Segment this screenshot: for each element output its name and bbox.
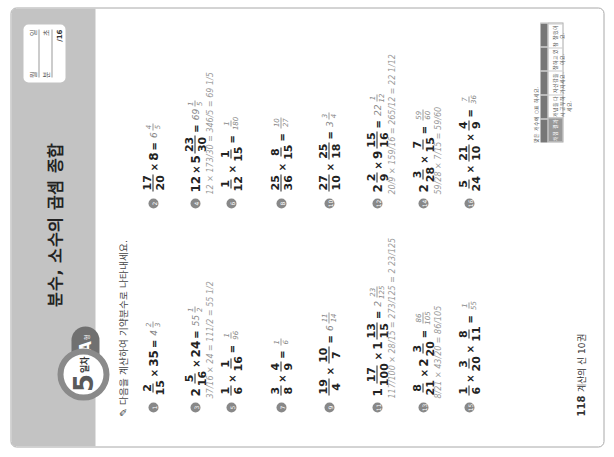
month-label: 월 <box>27 71 37 77</box>
problem-10: 102710×2518=334 <box>317 111 341 208</box>
fraction: 34 <box>321 112 337 118</box>
handwritten-work: 117/100 × 28/15 = 273/125 = 2 23/125 <box>387 237 396 398</box>
problem-2: 21720×8=645 <box>141 122 165 208</box>
problem-15: 1516×320×811=155 <box>457 300 481 412</box>
eval-cell: 채점 결과 <box>548 117 562 141</box>
problem-number: 10 <box>324 198 334 208</box>
fraction: 815 <box>269 144 293 159</box>
fraction: 320 <box>411 341 435 356</box>
fraction: 16 <box>457 385 481 395</box>
fraction: 1180 <box>223 116 239 129</box>
fraction: 16 <box>219 385 243 395</box>
day-number: 5 <box>68 373 98 391</box>
problem-9: 9194×107=61114 <box>317 311 341 412</box>
instruction-text: 다음을 계산하여 기약분수로 나타내세요. <box>117 240 128 405</box>
handwritten-answer: 155 <box>461 300 477 311</box>
handwritten-answer: 736 <box>461 94 477 105</box>
fraction: 112 <box>369 93 385 102</box>
instruction: ✎다음을 계산하여 기약분수로 나타내세요. <box>115 240 129 416</box>
problem-5: 516×116=196 <box>219 329 243 412</box>
fraction: 196 <box>223 330 239 339</box>
problem-12: 12229×91516=22112 <box>365 92 389 208</box>
fraction: 112 <box>219 176 243 191</box>
fraction: 524 <box>457 176 481 191</box>
handwritten-answer: 1027 <box>273 116 289 129</box>
fraction: 16 <box>273 338 289 344</box>
problem-number: 6 <box>226 198 236 208</box>
problem-number: 12 <box>372 198 382 208</box>
fraction: 115 <box>219 146 243 161</box>
eval-cells: 채점 결과 개념을 다시 공부하세요. 자신감을 가지세요. 잘하고 있어요. … <box>547 22 563 142</box>
day-label-field: 일 <box>27 29 37 35</box>
eval-caption: 맞은 개수에 ○표 하세요. <box>531 22 538 142</box>
handwritten-work: 8/21 × 43/20 = 86/105 <box>433 305 442 398</box>
problem-number: 16 <box>464 198 474 208</box>
fraction: 215 <box>141 380 165 395</box>
handwritten-work: 59/28 × 7/15 = 59/60 <box>433 106 442 194</box>
handwritten-work: 12 × 173/30 = 346/5 = 69 1/5 <box>205 72 214 194</box>
evaluation-table: 맞은 개수에 ○표 하세요. 채점 결과 개념을 다시 공부하세요. 자신감을 … <box>531 22 563 142</box>
problem-number: 15 <box>464 402 474 412</box>
problem-4: 412×52330=6915 <box>183 99 207 208</box>
fraction: 715 <box>411 137 435 152</box>
fraction: 2110 <box>457 144 481 161</box>
day-badge: 5 일차 <box>57 348 109 400</box>
pencil-icon: ✎ <box>117 408 128 416</box>
handwritten-answer: 196 <box>223 329 239 340</box>
fraction: 17100 <box>365 363 389 386</box>
page-frame: 5 일차 A 형 분수, 소수의 곱셈 종합 월일 분초 /16 ✎다음을 계산… <box>10 7 604 447</box>
handwritten-answer: 16 <box>273 337 289 345</box>
handwritten-answer: 223125 <box>369 284 385 306</box>
fraction: 1720 <box>141 174 165 191</box>
problem-6: 6112×115=1180 <box>219 115 243 208</box>
problem-11: 11117100×11315=223125 <box>365 284 389 412</box>
fraction: 155 <box>461 301 477 310</box>
problem-number: 8 <box>276 198 286 208</box>
problem-number: 13 <box>418 402 428 412</box>
problem-3: 32516×24=5512 <box>183 305 207 412</box>
handwritten-work: 37/16 × 24 = 111/2 = 55 1/2 <box>205 281 214 398</box>
fraction: 12 <box>187 306 203 312</box>
fraction: 1315 <box>365 322 389 339</box>
problem-8: 82536×815=1027 <box>269 116 293 208</box>
fraction: 320 <box>457 356 481 371</box>
fraction: 49 <box>457 120 481 130</box>
handwritten-work: 20/9 × 159/16 = 265/12 = 22 1/12 <box>387 54 396 194</box>
score-total: /16 <box>55 29 63 77</box>
worksheet-page: 5 일차 A 형 분수, 소수의 곱셈 종합 월일 분초 /16 ✎다음을 계산… <box>0 0 614 457</box>
fraction: 328 <box>411 166 435 181</box>
fraction: 15 <box>187 100 203 106</box>
eval-cell: 개념을 다시 공부하세요. <box>548 94 562 118</box>
fraction: 29 <box>365 172 389 182</box>
minute-label: 분 <box>40 71 50 77</box>
handwritten-answer: 334 <box>321 111 337 126</box>
handwritten-answer: 5512 <box>187 305 203 326</box>
handwritten-answer: 86105 <box>415 310 431 325</box>
fraction: 116 <box>219 356 243 371</box>
fraction: 107 <box>317 346 341 363</box>
eval-cell: 참 잘했어요. <box>548 23 562 47</box>
handwritten-answer: 61114 <box>321 311 337 331</box>
fraction: 2330 <box>183 135 207 152</box>
fraction: 38 <box>269 385 293 395</box>
fraction: 86105 <box>415 311 431 324</box>
fraction: 2536 <box>269 174 293 191</box>
fraction: 1027 <box>273 117 289 128</box>
fraction: 5960 <box>415 109 431 120</box>
handwritten-answer: 645 <box>145 122 161 137</box>
problem-number: 5 <box>226 402 236 412</box>
problem-number: 2 <box>148 198 158 208</box>
page-title: 분수, 소수의 곱셈 종합 <box>41 142 65 306</box>
fraction: 1114 <box>321 312 337 323</box>
problem-number: 4 <box>190 198 200 208</box>
fraction: 45 <box>145 123 161 129</box>
problem-13: 13821×2320=86105 <box>411 310 435 412</box>
problem-number: 7 <box>276 402 286 412</box>
page-footer: 118계산의 신 10권 <box>574 334 587 416</box>
fraction: 2518 <box>317 142 341 159</box>
problem-14: 142328×715=5960 <box>411 108 435 208</box>
type-suffix: 형 <box>81 334 90 340</box>
score-box: 월일 분초 /16 <box>23 24 65 82</box>
problem-number: 11 <box>372 402 382 412</box>
book-title: 계산의 신 10권 <box>576 334 586 391</box>
